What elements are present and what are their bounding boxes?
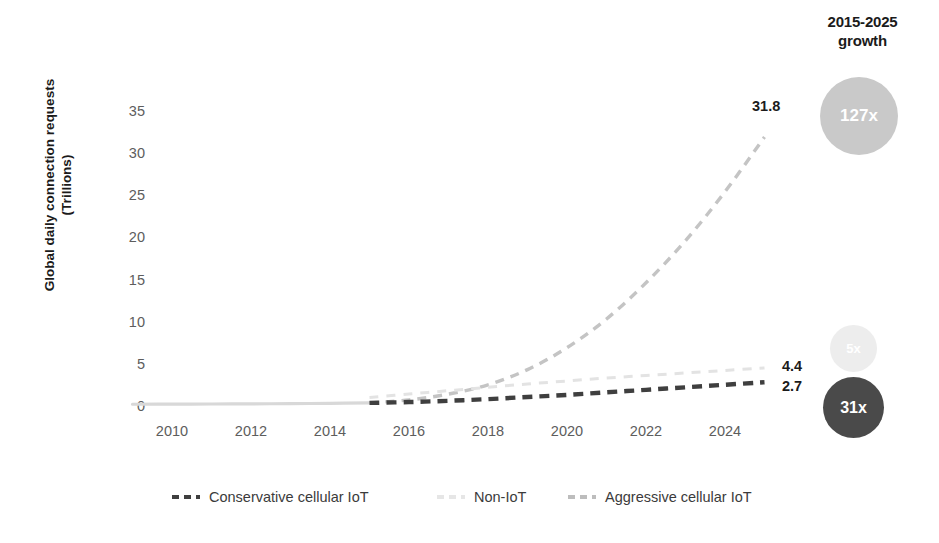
series-layer xyxy=(133,137,765,404)
legend-item-non-iot: Non-IoT xyxy=(437,487,526,507)
growth-bubble-label: 5x xyxy=(846,341,860,356)
legend-dash-icon xyxy=(568,495,596,499)
legend-label: Conservative cellular IoT xyxy=(209,489,369,505)
chart-figure: 2015-2025 growth Global daily connection… xyxy=(0,0,939,543)
growth-bubble-non-iot: 5x xyxy=(830,325,877,372)
legend-item-aggressive: Aggressive cellular IoT xyxy=(568,487,752,507)
legend-dash-icon xyxy=(437,495,465,499)
data-label-non-iot: 4.4 xyxy=(782,358,802,374)
growth-bubble-conservative: 31x xyxy=(823,377,884,438)
history-line xyxy=(133,403,370,404)
chart-legend: Conservative cellular IoT Non-IoT Aggres… xyxy=(0,487,939,513)
growth-bubble-label: 127x xyxy=(840,106,878,126)
growth-bubble-label: 31x xyxy=(840,399,867,417)
data-label-conservative: 2.7 xyxy=(782,378,802,394)
growth-bubble-aggressive: 127x xyxy=(820,77,898,155)
aggressive-line xyxy=(370,137,765,403)
legend-item-conservative: Conservative cellular IoT xyxy=(172,487,369,507)
non-iot-line xyxy=(370,368,765,398)
legend-label: Aggressive cellular IoT xyxy=(605,489,752,505)
data-label-aggressive: 31.8 xyxy=(752,98,780,114)
legend-dash-icon xyxy=(172,495,200,499)
plot-area xyxy=(0,0,939,543)
legend-label: Non-IoT xyxy=(474,489,526,505)
